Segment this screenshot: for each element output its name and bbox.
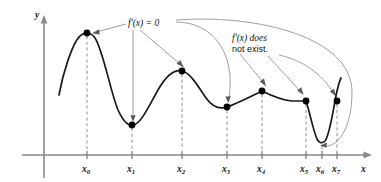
axes-group — [22, 15, 372, 178]
figure-canvas: y x x0 x1 x2 x3 x4 x5 x6 — [0, 0, 381, 182]
x-axis-label: x — [360, 164, 366, 174]
tick-label-x2: x2 — [176, 164, 186, 175]
point-marker-x5 — [303, 98, 310, 105]
leader-head-x1 — [130, 115, 135, 122]
leader-nodiff-to-x7 — [279, 55, 333, 92]
x-tick-labels-group: x0 x1 x2 x3 x4 x5 x6 x7 — [81, 164, 341, 175]
drop-lines-group — [87, 36, 337, 150]
tick-label-x7: x7 — [331, 164, 341, 175]
y-axis-arrowhead — [41, 15, 48, 24]
critical-point-markers-group — [84, 30, 341, 129]
point-marker-x3 — [224, 104, 231, 111]
function-curve — [59, 33, 341, 143]
x-axis-arrowhead — [364, 152, 373, 159]
leader-zero-to-x2 — [140, 30, 180, 64]
leader-head-x0 — [92, 29, 100, 34]
calculus-critical-points-figure: y x x0 x1 x2 x3 x4 x5 x6 — [0, 0, 381, 182]
point-marker-x7 — [334, 98, 341, 105]
point-marker-x1 — [129, 122, 136, 129]
annotation-no-derivative: f'(x) does not exist. — [232, 33, 268, 54]
leader-zero-to-x0 — [96, 24, 126, 32]
leader-head-x2 — [177, 60, 184, 68]
leader-head-x7 — [330, 89, 336, 97]
tick-label-x0: x0 — [81, 164, 91, 175]
tick-label-x4: x4 — [256, 164, 266, 175]
annotation-no-derivative-line2: not exist. — [232, 44, 268, 54]
point-marker-x0 — [84, 30, 91, 37]
leader-nodiff-to-x4 — [240, 54, 263, 82]
y-axis-label: y — [34, 10, 40, 20]
tick-label-x5: x5 — [299, 164, 309, 175]
leader-nodiff-to-x5 — [268, 56, 300, 91]
tick-label-x6: x6 — [315, 164, 325, 175]
point-marker-x2 — [179, 68, 186, 75]
point-marker-x4 — [259, 88, 266, 95]
tick-label-x1: x1 — [126, 164, 135, 175]
tick-label-x3: x3 — [221, 164, 231, 175]
annotation-zero-derivative: f'(x) = 0 — [128, 18, 159, 29]
leader-zero-to-x3 — [176, 22, 230, 98]
leader-head-x3 — [225, 96, 230, 103]
annotation-no-derivative-line1: f'(x) does — [232, 33, 267, 44]
